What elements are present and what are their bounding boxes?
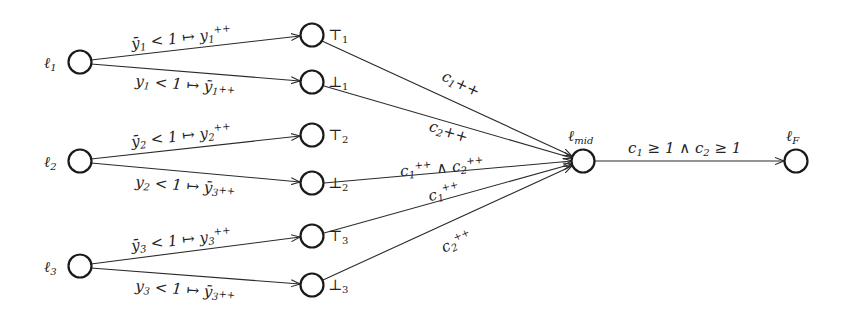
edge-label-l1-bot1: y1 < 1 ↦ ȳ1++ — [134, 72, 236, 99]
label-l1: ℓ1 — [44, 54, 57, 73]
node-top3 — [301, 225, 324, 248]
edge-label-l3-top3: ȳ3 < 1 ↦ y3++ — [129, 224, 232, 255]
edge-label-lmid-lF: c1 ≥ 1 ∧ c2 ≥ 1 — [628, 139, 741, 158]
edge-label-bot1-lmid: c2++ — [427, 117, 471, 146]
node-bot1 — [301, 71, 324, 94]
node-lmid — [572, 150, 595, 173]
edge-label-top3-lmid: c1++ — [426, 179, 462, 206]
node-bot2 — [301, 172, 324, 195]
automaton-diagram: ℓ1 ℓ2 ℓ3 ⊤1 ⊥1 ⊤2 ⊥2 ⊤3 ⊥3 ℓmid ℓF ȳ1 < … — [0, 0, 847, 323]
edge-label-l1-top1: ȳ1 < 1 ↦ y1++ — [129, 22, 232, 53]
edge-label-bot2-lmid: c1++ ∧ c2++ — [399, 154, 484, 181]
node-bot3 — [301, 274, 324, 297]
edge-label-l2-bot2: y2 < 1 ↦ ȳ3++ — [134, 173, 236, 200]
label-bot1: ⊥1 — [328, 73, 348, 92]
label-lF: ℓF — [786, 127, 800, 146]
label-bot2: ⊥2 — [328, 174, 348, 193]
node-top1 — [301, 24, 324, 47]
node-top2 — [301, 124, 324, 147]
edge-label-top1-lmid: c1++ — [439, 67, 483, 101]
label-top3: ⊤3 — [328, 227, 348, 246]
node-lF — [785, 150, 808, 173]
label-top1: ⊤1 — [328, 26, 348, 45]
label-top2: ⊤2 — [328, 126, 348, 145]
label-lmid: ℓmid — [568, 127, 593, 146]
node-l3 — [69, 255, 92, 278]
edge-label-l2-top2: ȳ2 < 1 ↦ y2++ — [129, 120, 232, 151]
label-bot3: ⊥3 — [328, 276, 348, 295]
node-l2 — [69, 150, 92, 173]
edge-label-l3-bot3: y3 < 1 ↦ ȳ3++ — [134, 277, 236, 304]
edge-label-bot3-lmid: c2++ — [438, 226, 475, 257]
node-l1 — [69, 51, 92, 74]
label-l2: ℓ2 — [44, 153, 57, 172]
label-l3: ℓ3 — [44, 258, 57, 277]
